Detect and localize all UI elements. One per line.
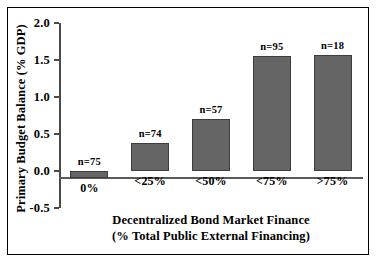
y-axis-title-text: Primary Budget Balance (% GDP): [14, 24, 29, 212]
bar-group: n=95<75%: [241, 23, 302, 208]
y-axis-tick-label: 1.5: [34, 53, 50, 68]
y-axis-title: Primary Budget Balance (% GDP): [12, 20, 30, 216]
bar[interactable]: [131, 143, 169, 171]
x-axis-title-line1: Decentralized Bond Market Finance: [59, 212, 363, 228]
bar[interactable]: [314, 55, 352, 171]
bar[interactable]: [192, 119, 230, 171]
bar-count-label: n=75: [78, 156, 101, 167]
bar-group: n=18>75%: [302, 23, 363, 208]
bar-count-label: n=18: [321, 40, 344, 51]
bar-group: n=74<25%: [120, 23, 181, 208]
bar[interactable]: [253, 56, 291, 171]
bar-count-label: n=95: [260, 41, 283, 52]
y-axis-tick-label: 0.5: [34, 127, 50, 142]
bar-group: n=750%: [59, 23, 120, 208]
x-axis-title-line2: (% Total Public External Financing): [59, 228, 363, 244]
bar-count-label: n=74: [139, 128, 162, 139]
x-axis-title: Decentralized Bond Market Finance (% Tot…: [59, 212, 363, 244]
y-axis-tick-label: 1.0: [34, 90, 50, 105]
bar[interactable]: [70, 171, 108, 178]
y-axis-tick-label: -0.5: [29, 201, 50, 216]
x-axis-category-label: <75%: [256, 174, 288, 189]
plot-area: 2.01.51.00.50.0-0.5 n=750%n=74<25%n=57<5…: [59, 23, 363, 208]
x-axis-category-label: <50%: [195, 174, 227, 189]
bar-count-label: n=57: [199, 104, 222, 115]
x-axis-category-label: 0%: [80, 181, 98, 196]
y-axis-tick-label: 2.0: [34, 16, 50, 31]
y-axis-tick-label: 0.0: [34, 164, 50, 179]
x-axis-category-label: <25%: [134, 174, 166, 189]
bar-group: n=57<50%: [181, 23, 242, 208]
x-axis-category-label: >75%: [317, 174, 349, 189]
chart-figure-frame: Primary Budget Balance (% GDP) 2.01.51.0…: [7, 7, 369, 255]
